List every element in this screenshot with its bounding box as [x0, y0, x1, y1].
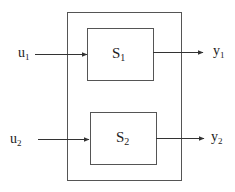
block-s1-label: S1 [112, 46, 125, 63]
output-y1-label: y1 [213, 44, 225, 60]
outer-system-box [68, 13, 182, 181]
output-y2-label: y2 [211, 130, 223, 146]
input-u1-label: u1 [18, 46, 30, 62]
block-s2-label: S2 [116, 130, 129, 147]
block-diagram-canvas [0, 0, 235, 192]
input-u2-label: u2 [10, 132, 22, 148]
